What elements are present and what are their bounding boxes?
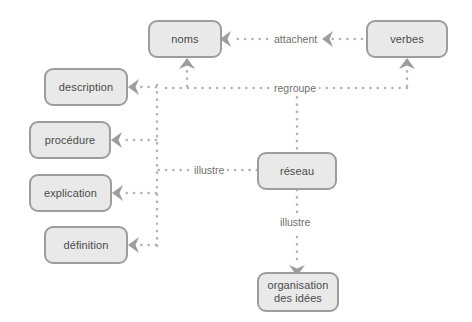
node-definition-label: définition	[60, 239, 111, 252]
node-description-label: description	[56, 81, 116, 94]
node-definition[interactable]: définition	[44, 226, 128, 264]
arrowhead-into-description	[128, 79, 139, 95]
node-explication-label: explication	[41, 187, 100, 200]
edge-label-regroupe: regroupe	[271, 82, 319, 94]
arrowhead-into-explication	[112, 185, 123, 201]
node-organisation-des-idees[interactable]: organisation des idées	[257, 272, 339, 312]
arrowhead-into-definition	[128, 237, 139, 253]
node-organisation-des-idees-label: organisation des idées	[264, 279, 331, 305]
node-reseau[interactable]: réseau	[257, 152, 337, 190]
node-procedure[interactable]: procédure	[29, 121, 111, 159]
node-explication[interactable]: explication	[29, 174, 112, 212]
node-verbes-label: verbes	[387, 33, 427, 46]
node-verbes[interactable]: verbes	[366, 20, 448, 58]
edge-label-illustre-left: illustre	[191, 164, 227, 176]
arrowhead-into-procedure	[111, 132, 122, 148]
node-description[interactable]: description	[44, 68, 128, 106]
node-reseau-label: réseau	[277, 165, 317, 178]
node-noms[interactable]: noms	[148, 20, 222, 58]
arrowhead-into-noms-bottom	[179, 58, 195, 69]
node-noms-label: noms	[168, 33, 201, 46]
node-procedure-label: procédure	[42, 134, 98, 147]
edge-label-illustre-bottom: illustre	[277, 216, 313, 228]
edge-label-attachent: attachent	[271, 33, 320, 45]
concept-map-diagram: .dot { stroke: #b3b3b3; stroke-width: 2.…	[0, 0, 472, 322]
arrowhead-into-verbes-bottom	[399, 58, 415, 69]
arrowhead-attachent-mid	[322, 31, 333, 47]
